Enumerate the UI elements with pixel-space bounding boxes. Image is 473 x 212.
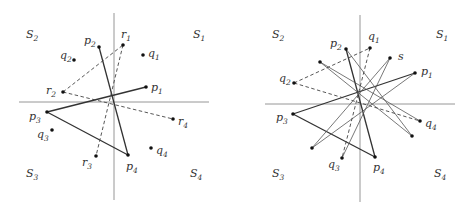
point-label-r1: r1 xyxy=(121,28,131,43)
point-label-p1: p1 xyxy=(151,81,163,96)
point-label-q3-subscript: 3 xyxy=(44,134,49,143)
point-label-q4-base: q xyxy=(425,117,432,130)
point-label-p4-base: p xyxy=(373,161,380,174)
point-r3 xyxy=(94,154,98,158)
point-label-p1-base: p xyxy=(421,65,428,78)
region-label-s3-subscript: 3 xyxy=(280,173,285,182)
point-label-r3: r3 xyxy=(82,156,92,171)
point-label-q1: q1 xyxy=(148,47,160,62)
point-r4 xyxy=(171,117,175,121)
point-label-p1-base: p xyxy=(151,81,158,94)
point-label-q2-subscript: 2 xyxy=(66,55,72,64)
point-label-q4-subscript: 4 xyxy=(431,123,437,132)
point-label-q2: q2 xyxy=(279,72,291,87)
region-label-s1-subscript: 1 xyxy=(444,34,449,43)
point-label-p2-subscript: 2 xyxy=(336,43,342,52)
point-label-q2-base: q xyxy=(279,72,286,85)
point-label-p4: p4 xyxy=(126,160,138,175)
point-label-q3: q3 xyxy=(328,158,340,173)
point-p4 xyxy=(373,155,377,159)
solid-segment xyxy=(320,62,420,121)
point-label-q1: q1 xyxy=(368,30,380,45)
point-q1 xyxy=(368,46,372,50)
point-p4 xyxy=(126,153,130,157)
region-label-s3: S3 xyxy=(26,167,39,182)
point-p2 xyxy=(344,47,348,51)
point-label-p1-subscript: 1 xyxy=(158,87,163,96)
point-label-p3: p3 xyxy=(29,110,41,125)
point-a xyxy=(310,146,314,150)
point-label-s: s xyxy=(398,50,404,63)
point-label-q1-subscript: 1 xyxy=(155,53,160,62)
point-c xyxy=(410,134,414,138)
point-label-r4: r4 xyxy=(178,115,188,130)
point-q1 xyxy=(141,53,145,57)
point-q2 xyxy=(72,58,76,62)
point-label-p3-subscript: 3 xyxy=(283,117,288,126)
region-label-s3: S3 xyxy=(272,167,285,182)
point-q3 xyxy=(50,128,54,132)
point-label-r3-subscript: 3 xyxy=(87,162,92,171)
region-label-s2-subscript: 2 xyxy=(279,34,285,43)
point-label-r2: r2 xyxy=(46,84,56,99)
point-p1 xyxy=(144,85,148,89)
region-label-s4: S4 xyxy=(190,167,203,182)
region-label-s2: S2 xyxy=(272,28,285,43)
point-label-p2: p2 xyxy=(330,37,342,52)
point-label-q4-subscript: 4 xyxy=(162,150,168,159)
point-label-p4-subscript: 4 xyxy=(132,166,138,175)
point-label-q1-base: q xyxy=(148,47,155,60)
point-label-q3-base: q xyxy=(328,158,335,171)
dashed-segment xyxy=(342,48,370,158)
solid-segment xyxy=(47,112,128,155)
point-label-p4-subscript: 4 xyxy=(379,167,385,176)
right-panel: S1S2S3S4p1p2p3p4q1q2q3q4s xyxy=(265,15,455,202)
dashed-segment xyxy=(63,92,173,119)
point-label-p4: p4 xyxy=(373,161,385,176)
region-label-s1: S1 xyxy=(436,28,448,43)
point-label-p1-subscript: 1 xyxy=(428,71,433,80)
geometry-figure: S1S2S3S4p1p2p3p4q1q2q3q4r1r2r3r4 S1S2S3S… xyxy=(0,0,473,212)
dashed-segment xyxy=(96,45,123,156)
left-panel: S1S2S3S4p1p2p3p4q1q2q3q4r1r2r3r4 xyxy=(19,13,209,200)
solid-segment xyxy=(293,114,375,157)
region-label-s4-subscript: 4 xyxy=(441,173,447,182)
point-label-q1-base: q xyxy=(368,30,375,43)
point-p2 xyxy=(97,45,101,49)
point-p3 xyxy=(45,110,49,114)
point-label-p1: p1 xyxy=(421,65,433,80)
region-label-s1-subscript: 1 xyxy=(201,34,206,43)
point-label-q3: q3 xyxy=(37,128,49,143)
point-label-q1-subscript: 1 xyxy=(375,36,380,45)
point-label-q3-subscript: 3 xyxy=(335,164,340,173)
point-r2 xyxy=(61,90,65,94)
point-label-p2-subscript: 2 xyxy=(90,40,96,49)
point-p3 xyxy=(291,112,295,116)
region-label-s4: S4 xyxy=(434,167,447,182)
point-label-q2-base: q xyxy=(60,49,67,62)
region-label-s2: S2 xyxy=(26,28,39,43)
point-label-r4-subscript: 4 xyxy=(182,121,188,130)
solid-segment xyxy=(312,73,415,148)
point-label-p4-base: p xyxy=(126,160,133,173)
region-label-s1: S1 xyxy=(193,28,205,43)
solid-segment xyxy=(99,47,128,155)
point-p1 xyxy=(413,71,417,75)
point-label-r2-subscript: 2 xyxy=(50,90,56,99)
point-q4 xyxy=(418,119,422,123)
point-label-q2-subscript: 2 xyxy=(285,78,291,87)
point-r1 xyxy=(121,43,125,47)
region-label-s4-subscript: 4 xyxy=(197,173,203,182)
point-label-q2: q2 xyxy=(60,49,72,64)
point-label-q4: q4 xyxy=(156,144,168,159)
region-label-s3-subscript: 3 xyxy=(34,173,39,182)
point-label-p3-base: p xyxy=(276,111,283,124)
point-label-p3: p3 xyxy=(276,111,288,126)
point-label-p2-base: p xyxy=(330,37,337,50)
point-label-p3-subscript: 3 xyxy=(36,116,41,125)
point-label-p2: p2 xyxy=(84,34,96,49)
point-s xyxy=(388,56,392,60)
point-b xyxy=(318,60,322,64)
region-label-s2-subscript: 2 xyxy=(33,34,39,43)
point-label-q4: q4 xyxy=(425,117,437,132)
